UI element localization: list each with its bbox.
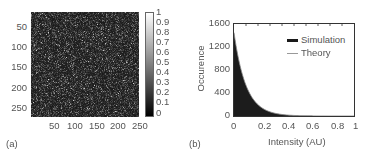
y-tick-a: 200 xyxy=(11,83,27,93)
histogram-axes: Simulation Theory xyxy=(233,23,355,117)
colorbar-tick: 0.1 xyxy=(156,97,169,107)
x-tick-b: 0.4 xyxy=(282,121,295,131)
simulation-swatch xyxy=(287,39,298,42)
simulation-histogram xyxy=(234,33,354,116)
x-tick-a: 200 xyxy=(110,121,126,131)
x-tick-b: 0.2 xyxy=(258,121,271,131)
colorbar xyxy=(145,12,154,117)
y-axis-label: Occurence xyxy=(195,46,206,92)
y-tick-b: 0 xyxy=(225,110,230,120)
legend-theory: Theory xyxy=(287,47,331,58)
y-tick-b: 1200 xyxy=(209,41,230,51)
legend-simulation: Simulation xyxy=(287,34,345,45)
x-tick-b: 0.6 xyxy=(306,121,319,131)
x-tick-a: 150 xyxy=(89,121,105,131)
panel-label-b: (b) xyxy=(189,138,201,149)
y-tick-b: 1600 xyxy=(209,18,230,28)
colorbar-tick: 0 xyxy=(156,108,161,118)
y-tick-a: 150 xyxy=(11,62,27,72)
y-tick-b: 400 xyxy=(214,87,230,97)
x-tick-a: 100 xyxy=(67,121,83,131)
y-tick-a: 50 xyxy=(16,22,27,32)
x-tick-b: 1 xyxy=(353,121,358,131)
x-tick-b: 0 xyxy=(231,121,236,131)
x-tick-a: 50 xyxy=(49,121,60,131)
panel-label-a: (a) xyxy=(6,138,18,149)
x-axis-label: Intensity (AU) xyxy=(268,137,326,147)
y-tick-b: 800 xyxy=(214,64,230,74)
y-tick-a: 250 xyxy=(11,103,27,113)
x-tick-a: 250 xyxy=(132,121,148,131)
theory-swatch xyxy=(287,53,298,54)
y-tick-a: 100 xyxy=(11,42,27,52)
speckle-heatmap xyxy=(31,12,139,117)
x-tick-b: 0.8 xyxy=(331,121,344,131)
